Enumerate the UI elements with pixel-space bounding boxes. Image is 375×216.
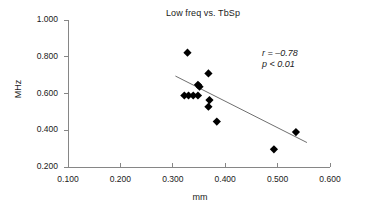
data-point-marker bbox=[194, 91, 202, 99]
y-tick-label: 0.400 bbox=[24, 124, 58, 134]
x-tick-marks bbox=[68, 163, 330, 167]
x-tick-label: 0.600 bbox=[310, 174, 350, 184]
data-point-marker bbox=[204, 103, 212, 111]
y-tick-marks bbox=[64, 20, 68, 167]
y-tick-label: 0.200 bbox=[24, 161, 58, 171]
data-point-marker bbox=[183, 49, 191, 57]
x-tick-label: 0.400 bbox=[205, 174, 245, 184]
data-point-marker bbox=[204, 69, 212, 77]
data-point-markers bbox=[180, 49, 300, 154]
x-tick-label: 0.100 bbox=[48, 174, 88, 184]
data-point-marker bbox=[292, 128, 300, 136]
y-tick-label: 1.000 bbox=[24, 14, 58, 24]
scatter-chart: Low freq vs. TbSp MHz mm r = –0.78 p < 0… bbox=[0, 0, 375, 216]
data-point-marker bbox=[270, 145, 278, 153]
data-point-marker bbox=[205, 96, 213, 104]
y-tick-label: 0.600 bbox=[24, 88, 58, 98]
y-tick-label: 0.800 bbox=[24, 51, 58, 61]
data-point-marker bbox=[213, 118, 221, 126]
x-tick-label: 0.200 bbox=[100, 174, 140, 184]
x-tick-label: 0.300 bbox=[153, 174, 193, 184]
x-tick-label: 0.500 bbox=[258, 174, 298, 184]
